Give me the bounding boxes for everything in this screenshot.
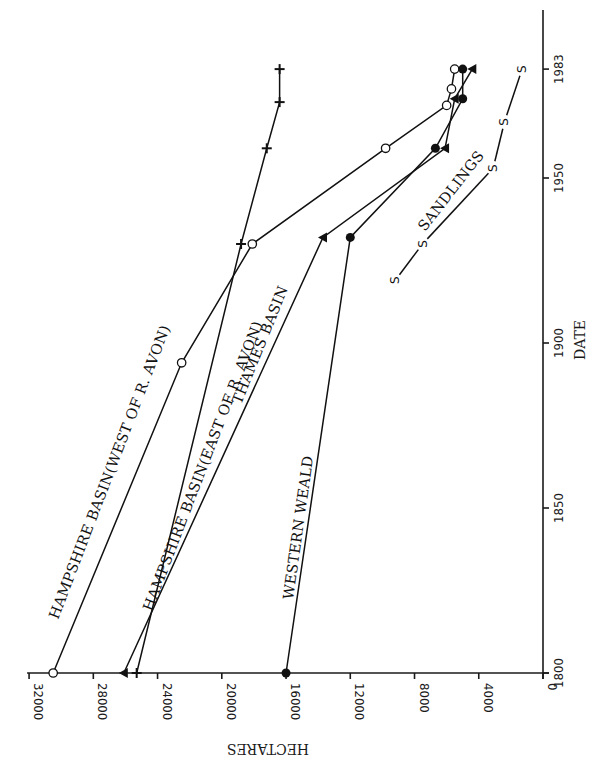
date-tick-label: 1850	[551, 493, 566, 523]
label-thames-basin: THAMES BASIN	[229, 283, 291, 406]
axes: 0400080001200016000200002400028000320001…	[27, 10, 566, 720]
filled-circle-marker-icon	[346, 233, 355, 242]
s-marker-icon: S	[515, 65, 529, 73]
hectares-tick-label: 28000	[95, 683, 110, 720]
triangle-marker-icon	[119, 668, 128, 678]
hectares-tick-label: 12000	[352, 683, 367, 720]
label-sandlings: SANDLINGS	[415, 148, 487, 234]
hectares-tick-label: 24000	[160, 683, 175, 720]
s-marker-icon: S	[388, 276, 402, 284]
s-marker-icon: S	[497, 118, 511, 126]
triangle-marker-icon	[467, 64, 476, 74]
open-circle-marker-icon	[442, 101, 450, 109]
date-tick-label: 1800	[551, 658, 566, 688]
filled-circle-marker-icon	[282, 669, 291, 678]
filled-circle-marker-icon	[458, 94, 467, 103]
date-tick-label: 1983	[551, 54, 566, 84]
open-circle-marker-icon	[248, 240, 256, 248]
open-circle-marker-icon	[450, 65, 458, 73]
date-tick-label: 1900	[551, 328, 566, 358]
y-axis-title: HECTARES	[227, 741, 309, 757]
hectares-tick-label: 8000	[417, 683, 432, 713]
hectares-tick-label: 20000	[224, 683, 239, 720]
triangle-marker-icon	[318, 232, 327, 242]
open-circle-marker-icon	[447, 85, 455, 93]
cross-marker-icon	[275, 64, 285, 74]
hectares-tick-label: 4000	[481, 683, 496, 713]
filled-circle-marker-icon	[431, 144, 440, 153]
cross-marker-icon	[236, 239, 246, 249]
s-marker-icon: S	[416, 240, 430, 248]
date-tick-label: 1950	[551, 163, 566, 193]
open-circle-marker-icon	[177, 359, 185, 367]
open-circle-marker-icon	[381, 144, 389, 152]
hectares-tick-label: 32000	[31, 683, 46, 720]
heathland-area-chart: 0400080001200016000200002400028000320001…	[0, 0, 607, 777]
cross-marker-icon	[262, 143, 272, 153]
x-axis-title: DATE	[572, 320, 588, 360]
s-marker-icon: S	[486, 164, 500, 172]
cross-marker-icon	[275, 97, 285, 107]
hectares-tick-label: 16000	[288, 683, 303, 720]
open-circle-marker-icon	[49, 669, 57, 677]
label-western-weald: WESTERN WEALD	[280, 455, 316, 601]
cross-marker-icon	[132, 668, 142, 678]
filled-circle-marker-icon	[458, 65, 467, 74]
